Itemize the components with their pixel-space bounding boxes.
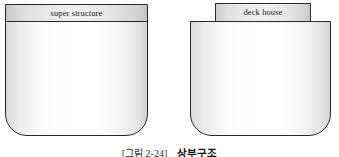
deck-house-label: deck house (243, 8, 282, 17)
figure-caption-title: 상부구조 (177, 148, 217, 157)
diagram-super-structure: super structure (5, 4, 148, 136)
deck-house-box: deck house (215, 3, 311, 22)
super-structure-label: super structure (51, 9, 103, 18)
figure-caption-tag: [그림 2-24] (122, 148, 168, 157)
figure-superstructure-deckhouse: super structure deck house [그림 2-24] 상부구… (0, 0, 339, 157)
figure-caption: [그림 2-24] 상부구조 (0, 143, 339, 157)
diagram-deck-house-hull (190, 21, 331, 136)
super-structure-band: super structure (6, 5, 147, 22)
